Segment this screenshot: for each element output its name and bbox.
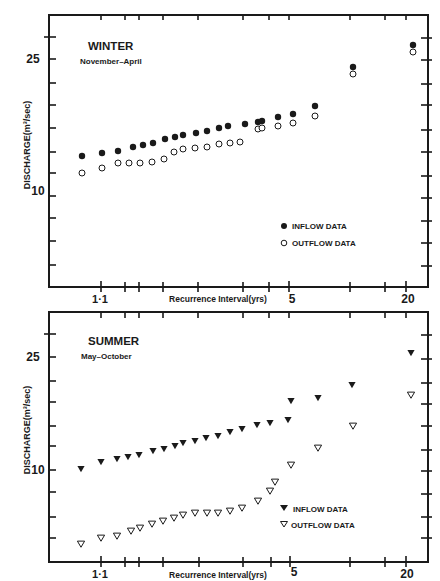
data-point bbox=[97, 459, 104, 465]
data-point bbox=[99, 150, 105, 156]
data-point bbox=[349, 423, 356, 429]
data-point bbox=[97, 535, 104, 541]
summer-inflow-series bbox=[77, 350, 414, 472]
data-point bbox=[115, 160, 121, 166]
data-point bbox=[191, 510, 198, 516]
data-point bbox=[287, 462, 294, 468]
data-point bbox=[284, 417, 291, 423]
data-point bbox=[204, 128, 210, 134]
summer-x-label-20: 20 bbox=[400, 567, 414, 581]
data-point bbox=[275, 114, 281, 120]
data-point bbox=[314, 445, 321, 451]
data-point bbox=[191, 438, 198, 444]
summer-legend: INFLOW DATA OUTFLOW DATA bbox=[280, 505, 355, 530]
data-point bbox=[130, 144, 136, 150]
data-point bbox=[161, 156, 167, 162]
summer-y-axis-title: DISCHARGE(m³/sec) bbox=[22, 386, 32, 475]
data-point bbox=[137, 160, 143, 166]
winter-legend: INFLOW DATA OUTFLOW DATA bbox=[281, 222, 356, 248]
data-point bbox=[204, 144, 210, 150]
summer-x-label-5: 5 bbox=[291, 565, 298, 579]
data-point bbox=[216, 125, 222, 131]
data-point bbox=[127, 528, 134, 534]
summer-x-label-1-1: 1·1 bbox=[92, 568, 108, 580]
data-point bbox=[192, 145, 198, 151]
winter-y-label-25: 25 bbox=[26, 52, 40, 66]
data-point bbox=[290, 120, 296, 126]
data-point bbox=[136, 525, 143, 531]
winter-plot-frame bbox=[49, 15, 428, 287]
data-point bbox=[226, 429, 233, 435]
filled-triangle-icon bbox=[280, 505, 288, 511]
data-point bbox=[410, 49, 416, 55]
data-point bbox=[115, 148, 121, 154]
data-point bbox=[238, 505, 245, 511]
winter-outflow-series bbox=[79, 49, 416, 176]
winter-panel: 25 10 1·1 5 20 Recurrence Interval(yrs) … bbox=[22, 15, 432, 306]
data-point bbox=[113, 533, 120, 539]
data-point bbox=[350, 71, 356, 77]
open-circle-icon bbox=[281, 240, 287, 246]
data-point bbox=[149, 448, 156, 454]
winter-x-axis-title: Recurrence Interval(yrs) bbox=[169, 294, 267, 304]
data-point bbox=[99, 165, 105, 171]
data-point bbox=[259, 118, 265, 124]
data-point bbox=[254, 498, 261, 504]
winter-title: WINTER bbox=[88, 40, 134, 52]
winter-x-label-5: 5 bbox=[289, 292, 296, 306]
data-point bbox=[79, 170, 85, 176]
summer-plot-frame bbox=[49, 312, 428, 562]
data-point bbox=[135, 452, 142, 458]
data-point bbox=[237, 139, 243, 145]
data-point bbox=[259, 125, 265, 131]
data-point bbox=[242, 121, 248, 127]
data-point bbox=[202, 435, 209, 441]
data-point bbox=[216, 141, 222, 147]
data-point bbox=[160, 446, 167, 452]
data-point bbox=[149, 159, 155, 165]
data-point bbox=[180, 146, 186, 152]
data-point bbox=[79, 153, 85, 159]
summer-x-axis-title: Recurrence Interval(yrs) bbox=[169, 570, 267, 580]
data-point bbox=[148, 521, 155, 527]
data-point bbox=[113, 456, 120, 462]
data-point bbox=[287, 398, 294, 404]
data-point bbox=[77, 466, 84, 472]
summer-outflow-series bbox=[77, 392, 414, 547]
data-point bbox=[179, 512, 186, 518]
data-point bbox=[312, 113, 318, 119]
summer-right-ticks bbox=[421, 335, 432, 538]
data-point bbox=[238, 426, 245, 432]
data-point bbox=[271, 479, 278, 485]
filled-circle-icon bbox=[281, 223, 287, 229]
data-point bbox=[266, 420, 273, 426]
data-point bbox=[126, 160, 132, 166]
data-point bbox=[77, 541, 84, 547]
data-point bbox=[140, 142, 146, 148]
winter-x-label-20: 20 bbox=[401, 292, 415, 306]
data-point bbox=[179, 440, 186, 446]
data-point bbox=[214, 510, 221, 516]
summer-y-label-25: 25 bbox=[26, 350, 40, 364]
data-point bbox=[171, 149, 177, 155]
winter-y-axis-title: DISCHARGE(m³/sec) bbox=[22, 101, 32, 190]
data-point bbox=[225, 123, 231, 129]
data-point bbox=[162, 136, 168, 142]
data-point bbox=[203, 510, 210, 516]
data-point bbox=[290, 111, 296, 117]
winter-x-label-1-1: 1·1 bbox=[92, 293, 108, 305]
data-point bbox=[350, 64, 356, 70]
winter-legend-inflow: INFLOW DATA bbox=[292, 222, 347, 231]
winter-subtitle: November–April bbox=[80, 57, 142, 66]
data-point bbox=[312, 103, 318, 109]
summer-title: SUMMER bbox=[88, 335, 140, 347]
data-point bbox=[275, 123, 281, 129]
data-point bbox=[227, 140, 233, 146]
winter-right-ticks bbox=[421, 38, 432, 266]
data-point bbox=[266, 488, 273, 494]
data-point bbox=[348, 382, 355, 388]
data-point bbox=[150, 140, 156, 146]
figure: 25 10 1·1 5 20 Recurrence Interval(yrs) … bbox=[0, 0, 440, 581]
data-point bbox=[214, 433, 221, 439]
data-point bbox=[172, 134, 178, 140]
